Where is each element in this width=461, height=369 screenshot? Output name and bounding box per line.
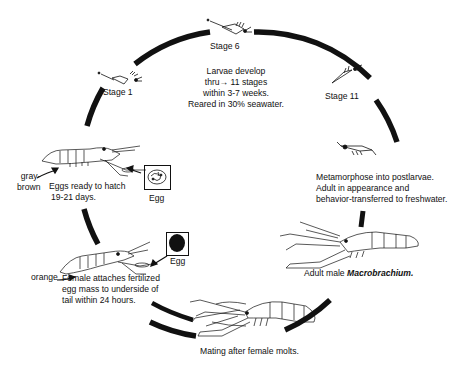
hatch-line-1: Eggs ready to hatch: [49, 181, 125, 192]
gray-brown-line-2: brown: [17, 182, 40, 193]
center-line-4: Reared in 30% seawater.: [176, 99, 296, 110]
gray-brown-line-1: gray-: [17, 171, 40, 182]
fresh-egg-label: Egg: [170, 256, 185, 267]
adult-male-prefix: Adult male: [304, 268, 347, 278]
female-orange-eggs-drawing: [60, 242, 152, 274]
species-name: Macrobrachium.: [347, 268, 413, 278]
cycle-arc-right: [376, 100, 397, 142]
stage1-label: Stage 1: [103, 87, 133, 98]
center-line-2: thru→ 11 stages: [176, 77, 296, 88]
developed-egg-box: [144, 165, 171, 190]
postlarvae-line-3: behavior-transferred to freshwater.: [316, 194, 447, 205]
stage6-label: Stage 6: [210, 41, 240, 52]
hatch-text: Eggs ready to hatch 19-21 days.: [49, 181, 125, 203]
adult-male-label: Adult male Macrobrachium.: [304, 268, 413, 279]
stage11-label: Stage 11: [325, 91, 359, 102]
hatch-line-2: 19-21 days.: [49, 192, 125, 203]
attach-line-2: egg mass to underside of: [62, 284, 160, 295]
cycle-arc-bottom-right: [285, 300, 330, 330]
fresh-egg-box: [166, 232, 189, 256]
orange-label: orange: [31, 272, 58, 283]
female-gray-brown-eggs-drawing: [42, 146, 146, 176]
larvae-development-text: Larvae develop thru→ 11 stages within 3-…: [176, 66, 296, 110]
cycle-arc-bottom-left: [150, 322, 196, 336]
adult-male-drawing: [280, 222, 418, 268]
stage6-larva-drawing: [207, 19, 252, 34]
arrow-fresh-egg: [151, 256, 167, 266]
center-line-1: Larvae develop: [176, 66, 296, 77]
postlarvae-line-1: Metamorphose into postlarvae.: [316, 172, 447, 183]
cycle-arc-left: [84, 209, 98, 244]
postlarvae-text: Metamorphose into postlarvae. Adult in a…: [316, 172, 447, 205]
postlarvae-line-2: Adult in appearance and: [316, 183, 447, 194]
center-line-3: within 3-7 weeks.: [176, 88, 296, 99]
pointer-bar-postlarvae: [361, 211, 363, 227]
mating-pair-drawing: [190, 300, 315, 336]
gray-brown-label: gray- brown: [17, 171, 40, 193]
mating-label: Mating after female molts.: [200, 346, 299, 357]
attach-egg-text: Female attaches fertilized egg mass to u…: [62, 273, 160, 306]
attach-line-1: Female attaches fertilized: [62, 273, 160, 284]
postlarva-drawing: [337, 142, 376, 155]
developed-egg-label: Egg: [149, 193, 164, 204]
cycle-arc-left-upper: [87, 88, 103, 126]
attach-line-3: tail within 24 hours.: [62, 295, 160, 306]
stage1-larva-drawing: [98, 71, 142, 84]
cycle-arc-top-left: [135, 32, 210, 64]
